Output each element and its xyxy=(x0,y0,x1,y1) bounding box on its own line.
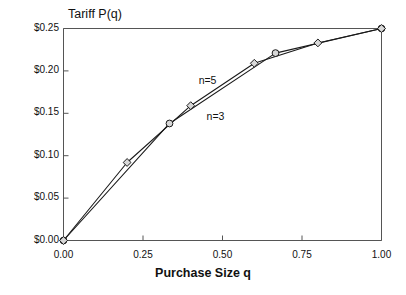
series-annotation-n3: n=3 xyxy=(207,110,225,122)
tariff-chart: Tariff P(q) $0.00$0.05$0.10$0.15$0.20$0.… xyxy=(0,0,406,295)
x-tick-label: 0.00 xyxy=(42,249,86,260)
x-axis-tick-labels: 0.000.250.500.751.00 xyxy=(0,0,406,295)
x-tick-label: 0.75 xyxy=(280,249,324,260)
x-tick-label: 1.00 xyxy=(360,249,404,260)
series-annotation-n5: n=5 xyxy=(199,74,217,86)
x-axis-title: Purchase Size q xyxy=(0,266,406,280)
x-tick-label: 0.50 xyxy=(201,249,245,260)
x-tick-label: 0.25 xyxy=(121,249,165,260)
